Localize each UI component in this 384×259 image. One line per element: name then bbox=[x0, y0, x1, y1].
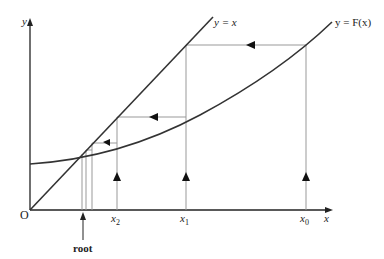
root-label: root bbox=[73, 242, 93, 254]
arrow-up-icon bbox=[113, 172, 121, 181]
y-axis-arrow-icon bbox=[27, 18, 33, 26]
arrow-up-icon bbox=[182, 172, 190, 181]
root-arrow-icon bbox=[80, 212, 86, 220]
tick-labels: x0 x1 x2 bbox=[110, 212, 309, 227]
axes bbox=[27, 18, 333, 213]
arrow-left-icon bbox=[149, 113, 158, 121]
tick-x2: x2 bbox=[110, 212, 120, 227]
line-label: y = x bbox=[213, 16, 237, 28]
iteration-diagram: y = x y = F(x) y x O x0 x1 x2 root bbox=[0, 0, 384, 259]
arrow-left-icon bbox=[103, 139, 110, 146]
curve-label: y = F(x) bbox=[335, 16, 371, 29]
arrow-up-icon bbox=[302, 172, 310, 181]
tick-x0: x0 bbox=[299, 212, 309, 227]
arrow-left-icon bbox=[246, 41, 255, 49]
x-axis-label: x bbox=[323, 212, 329, 224]
origin-label: O bbox=[20, 208, 29, 222]
tick-x1: x1 bbox=[179, 212, 189, 227]
curve-y-equals-F bbox=[30, 22, 332, 164]
y-axis-label: y bbox=[21, 15, 27, 27]
